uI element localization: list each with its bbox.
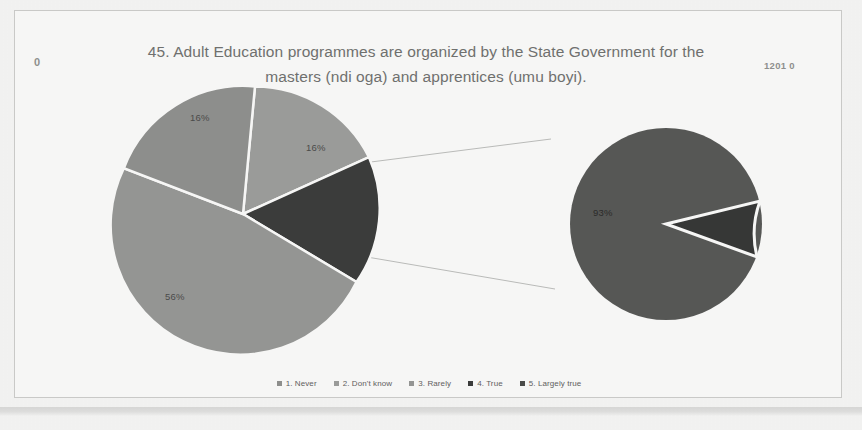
legend-label: 3. Rarely [418,379,451,388]
legend-item-rarely: 3. Rarely [409,379,451,388]
legend-label: 5. Largely true [529,379,582,388]
scanned-page: 45. Adult Education programmes are organ… [0,0,862,430]
plot-area: 16% 16% 56% 93% 1. Never 2. Don't know 3… [15,11,843,399]
page-corner-mark-right: 1201 0 [764,60,795,71]
legend-item-largely-true: 5. Largely true [520,379,582,388]
legend-label: 4. True [477,379,503,388]
legend-item-never: 1. Never [277,379,317,388]
legend-swatch-icon [409,381,414,386]
data-label-dont-know: 16% [306,142,326,153]
data-label-secondary: 93% [593,207,613,218]
chart-frame: 45. Adult Education programmes are organ… [14,10,842,398]
legend-label: 1. Never [286,379,317,388]
legend-swatch-icon [334,381,339,386]
connector-line-top [363,139,551,163]
legend-swatch-icon [520,381,525,386]
page-corner-mark-left: 0 [34,56,40,68]
data-label-rarely: 56% [165,291,185,302]
chart-legend: 1. Never 2. Don't know 3. Rarely 4. True… [15,379,843,388]
connector-line-bottom [367,257,555,289]
legend-item-dont-know: 2. Don't know [334,379,393,388]
legend-item-true: 4. True [468,379,503,388]
page-bottom-edge [0,407,862,416]
legend-swatch-icon [277,381,282,386]
legend-swatch-icon [468,381,473,386]
pie-of-pie-graphic [15,11,843,399]
legend-label: 2. Don't know [343,379,393,388]
data-label-never: 16% [190,112,210,123]
